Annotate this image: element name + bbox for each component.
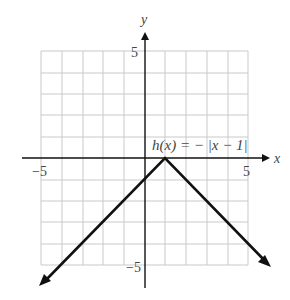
x-tick-neg5: −5 <box>32 164 47 179</box>
x-tick-5: 5 <box>243 164 250 179</box>
function-label: h(x) = − |x − 1| <box>152 137 248 154</box>
x-axis-label: x <box>273 151 281 166</box>
function-curve <box>44 158 268 282</box>
y-axis-label: y <box>139 12 148 27</box>
y-tick-neg5: −5 <box>126 260 141 275</box>
graph: y x 5 −5 −5 5 h(x) = − |x − 1| <box>0 0 290 300</box>
y-tick-5: 5 <box>131 45 138 60</box>
